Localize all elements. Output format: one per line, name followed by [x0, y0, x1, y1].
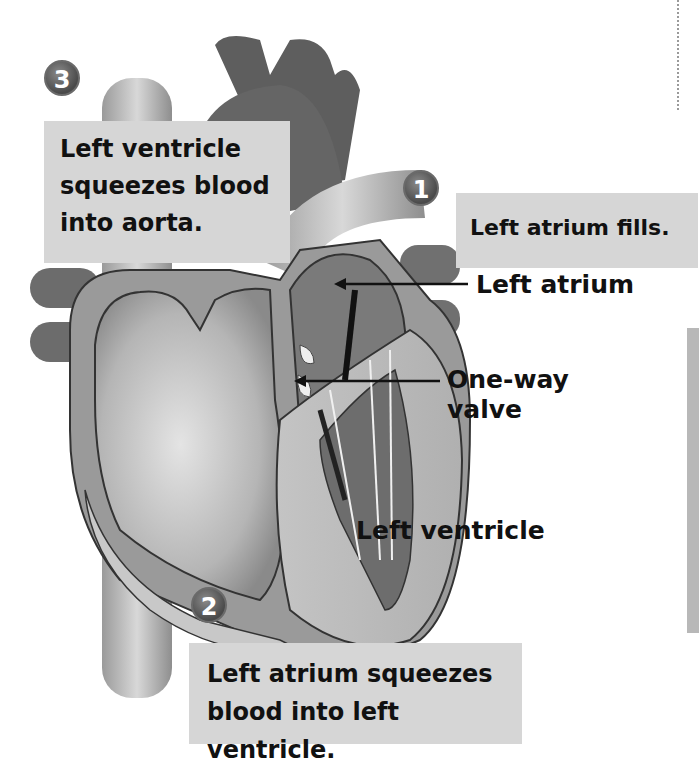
one-way-valve-label: One-way valve — [447, 365, 569, 425]
step-2-caption: Left atrium squeezes blood into left ven… — [189, 643, 522, 744]
step-1-caption: Left atrium fills. — [456, 193, 698, 268]
step-3-badge: 3 — [44, 60, 80, 96]
caption-line: squeezes blood — [60, 168, 290, 205]
label-line: One-way — [447, 365, 569, 395]
side-panel-edge — [687, 328, 699, 633]
caption-line: Left atrium fills. — [470, 215, 698, 240]
caption-line: blood into left ventricle. — [207, 693, 522, 762]
caption-line: Left ventricle — [60, 131, 290, 168]
dotted-divider — [677, 0, 679, 110]
caption-line: Left atrium squeezes — [207, 655, 522, 693]
step-1-badge: 1 — [403, 170, 439, 206]
left-ventricle-label: Left ventricle — [356, 516, 545, 545]
step-2-badge: 2 — [191, 587, 227, 623]
step-3-caption: Left ventricle squeezes blood into aorta… — [44, 121, 290, 263]
label-line: valve — [447, 395, 569, 425]
left-atrium-label: Left atrium — [476, 270, 634, 299]
caption-line: into aorta. — [60, 205, 290, 242]
